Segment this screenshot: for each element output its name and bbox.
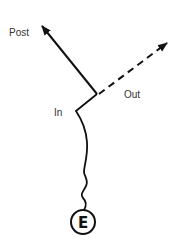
origin-node: E <box>71 210 95 234</box>
out-path-line <box>99 43 167 94</box>
in-label: In <box>54 107 62 118</box>
out-label: Out <box>124 89 140 100</box>
route-diagram: Post Out In E <box>0 0 184 244</box>
in-path-line <box>76 94 97 210</box>
post-label: Post <box>9 27 29 38</box>
origin-label: E <box>78 214 88 232</box>
post-path-line <box>42 26 97 94</box>
